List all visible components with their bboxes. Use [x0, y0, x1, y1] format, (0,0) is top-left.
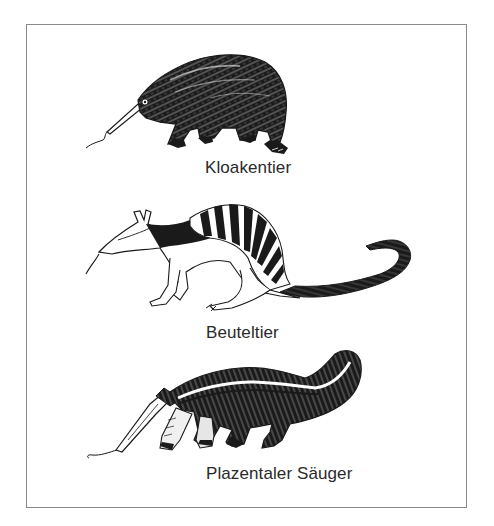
numbat-illustration — [86, 204, 411, 311]
caption-placental: Plazentaler Säuger — [206, 465, 352, 482]
echidna-illustration — [86, 55, 288, 154]
illustrations — [0, 0, 494, 526]
caption-marsupial: Beuteltier — [206, 324, 279, 341]
caption-monotreme: Kloakentier — [205, 159, 291, 176]
anteater-illustration — [88, 351, 362, 458]
